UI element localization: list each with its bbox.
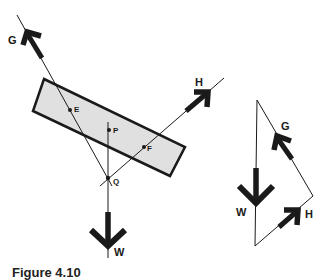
label-p: P: [113, 126, 119, 135]
figure-caption: Figure 4.10: [12, 266, 81, 279]
rigid-body: [33, 79, 185, 176]
label-e: E: [74, 105, 80, 114]
point-p: [107, 128, 111, 132]
point-e: [68, 108, 72, 112]
triangle-label-h: H: [305, 208, 313, 220]
triangle-arrow-w: [239, 168, 273, 203]
label-g: G: [8, 34, 17, 46]
point-q: [106, 176, 110, 180]
triangle-label-w: W: [236, 206, 247, 218]
point-f: [142, 145, 146, 149]
left-diagram: E P F Q G H W: [8, 15, 224, 258]
triangle-label-g: G: [281, 120, 290, 132]
label-h: H: [195, 76, 203, 88]
triangle-arrow-h: [279, 210, 298, 227]
label-w: W: [114, 246, 125, 258]
right-diagram: W G H: [236, 100, 313, 246]
force-arrow-w: [91, 212, 125, 246]
triangle-arrow-g: [274, 136, 292, 159]
label-f: F: [147, 144, 152, 153]
force-arrow-h: [186, 92, 208, 111]
force-arrow-g: [23, 32, 42, 58]
label-q: Q: [113, 177, 119, 186]
